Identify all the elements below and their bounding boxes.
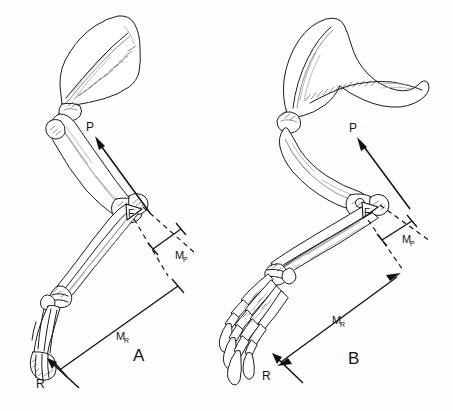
vector-p-label-a: P — [86, 120, 94, 134]
forelimb-mechanics-figure: P F M P M R — [0, 0, 453, 411]
vector-p-label-b: P — [349, 121, 357, 135]
vector-f-label-a: F — [128, 208, 134, 219]
claw-4-b — [243, 353, 254, 379]
vector-r-label-a: R — [36, 377, 45, 391]
moment-arm-mp-subscript-a: P — [183, 256, 188, 263]
panel-label-b: B — [348, 349, 359, 368]
vector-r-label-b: R — [262, 369, 271, 383]
moment-arm-mp-subscript-b: P — [410, 240, 415, 247]
accessory-carpal-b — [282, 268, 296, 284]
panel-label-a: A — [133, 346, 145, 365]
vector-f-label-b: F — [364, 207, 370, 218]
figure-root: P F M P M R — [0, 0, 453, 411]
moment-arm-mr-subscript-b: R — [340, 321, 345, 328]
humeral-head-a — [46, 120, 65, 140]
moment-arm-mr-subscript-a: R — [124, 337, 129, 344]
